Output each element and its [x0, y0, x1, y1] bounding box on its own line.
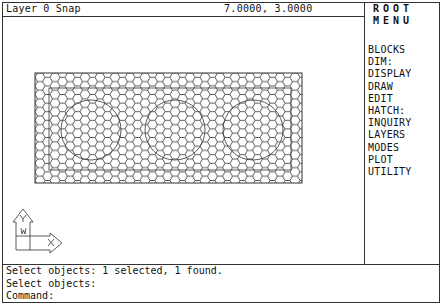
menu-title-root: ROOT — [373, 3, 413, 14]
drawing-area[interactable] — [3, 18, 363, 263]
ucs-icon — [13, 209, 62, 253]
command-history-line: Select objects: — [2, 278, 440, 291]
menu-item-draw[interactable]: DRAW — [368, 81, 412, 93]
menu-item-layers[interactable]: LAYERS — [368, 129, 412, 141]
hatch-honeycomb[interactable] — [35, 73, 302, 183]
menu-item-utility[interactable]: UTILITY — [368, 166, 412, 178]
layer-status: Layer 0 Snap — [6, 2, 81, 16]
screen-menu: ROOT MENU BLOCKS DIM: DISPLAY DRAW EDIT … — [364, 2, 440, 264]
menu-item-hatch[interactable]: HATCH: — [368, 105, 412, 117]
command-prompt[interactable]: Command: — [2, 290, 440, 303]
menu-item-edit[interactable]: EDIT — [368, 93, 412, 105]
status-bar: Layer 0 Snap 7.0000, 3.0000 — [2, 2, 364, 17]
menu-item-inquiry[interactable]: INQUIRY — [368, 117, 412, 129]
coordinate-display: 7.0000, 3.0000 — [224, 2, 313, 16]
command-line[interactable]: Select objects: 1 selected, 1 found. Sel… — [2, 264, 440, 303]
menu-item-plot[interactable]: PLOT — [368, 154, 412, 166]
menu-title-menu: MENU — [373, 15, 413, 27]
menu-item-blocks[interactable]: BLOCKS — [368, 44, 412, 56]
menu-item-dim[interactable]: DIM: — [368, 56, 412, 68]
menu-list: BLOCKS DIM: DISPLAY DRAW EDIT HATCH: INQ… — [368, 44, 412, 178]
menu-title[interactable]: ROOT MENU — [373, 3, 413, 27]
command-history-line: Select objects: 1 selected, 1 found. — [2, 265, 440, 278]
menu-item-modes[interactable]: MODES — [368, 142, 412, 154]
menu-item-display[interactable]: DISPLAY — [368, 68, 412, 80]
